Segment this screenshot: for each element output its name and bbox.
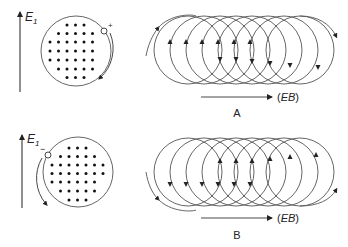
plasma-cross-section-a: + — [41, 16, 113, 86]
drift-spiral-a — [146, 15, 336, 84]
plasma-cross-section-b: − — [37, 137, 113, 207]
positive-particle-a — [101, 28, 107, 34]
charge-label-a: + — [108, 21, 113, 30]
e1-label-a: E1 — [25, 10, 37, 26]
eb-drift-arrow-a: (EB) — [201, 91, 299, 103]
panel-b: E1 − — [22, 132, 336, 241]
drift-spiral-b — [146, 138, 336, 211]
eb-label-b: (EB) — [277, 212, 299, 224]
eb-label-a: (EB) — [277, 91, 299, 103]
eb-drift-arrow-b: (EB) — [201, 212, 299, 224]
panel-a: E1 + — [20, 10, 336, 119]
e1-field-arrow-a: E1 — [20, 10, 37, 92]
b-field-dots-a — [49, 24, 95, 80]
negative-particle-b — [45, 152, 51, 158]
panel-label-a: A — [233, 107, 241, 119]
panel-label-b: B — [233, 229, 240, 241]
e-cross-b-drift-diagram: E1 + — [0, 0, 348, 247]
e1-field-arrow-b: E1 — [22, 132, 39, 208]
charge-label-b: − — [40, 144, 45, 154]
b-field-dots-b — [51, 147, 105, 202]
e1-label-b: E1 — [27, 132, 39, 148]
